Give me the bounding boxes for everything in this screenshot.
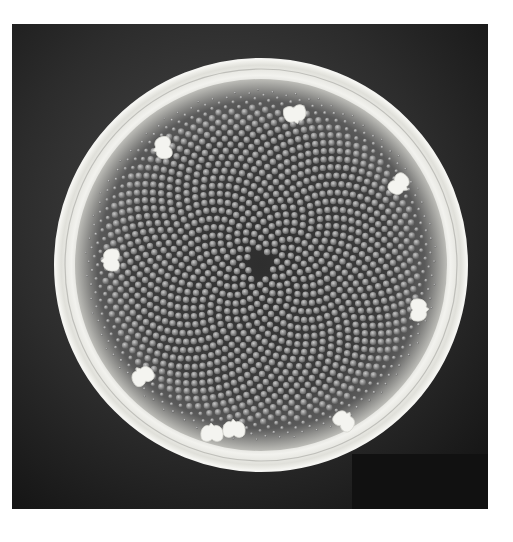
dark-shadow [352, 454, 488, 509]
diatom-micrograph [12, 24, 488, 509]
